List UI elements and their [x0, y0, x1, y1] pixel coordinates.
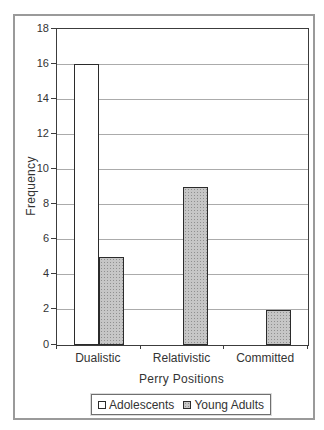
legend-swatch-young-adults	[183, 401, 191, 409]
x-tick-mark	[223, 345, 224, 349]
legend-label: Young Adults	[194, 398, 264, 412]
x-axis-title: Perry Positions	[56, 372, 307, 386]
y-tick-label: 2	[19, 302, 49, 315]
legend: AdolescentsYoung Adults	[91, 394, 271, 415]
bar-young-adults-committed	[266, 310, 291, 345]
bar-young-adults-relativistic	[183, 187, 208, 345]
legend-label: Adolescents	[109, 398, 174, 412]
x-category-label-relativistic: Relativistic	[140, 351, 224, 365]
y-tick-label: 18	[19, 22, 49, 35]
x-tick-mark	[140, 345, 141, 349]
y-tick-label: 10	[19, 162, 49, 175]
bar-adolescents-dualistic	[74, 64, 99, 345]
x-category-label-dualistic: Dualistic	[56, 351, 140, 365]
legend-item-adolescents: Adolescents	[98, 398, 174, 412]
bar-young-adults-dualistic	[99, 257, 124, 345]
x-category-label-committed: Committed	[223, 351, 307, 365]
y-tick-label: 12	[19, 127, 49, 140]
legend-item-young-adults: Young Adults	[183, 398, 264, 412]
y-tick-label: 4	[19, 267, 49, 280]
y-tick-label: 0	[19, 338, 49, 351]
plot-area	[56, 28, 309, 346]
y-tick-label: 8	[19, 197, 49, 210]
y-tick-label: 16	[19, 57, 49, 70]
legend-swatch-adolescents	[98, 401, 106, 409]
x-tick-mark	[56, 345, 57, 349]
chart-figure: Frequency 024681012141618 DualisticRelat…	[0, 0, 324, 430]
y-tick-label: 6	[19, 232, 49, 245]
y-tick-label: 14	[19, 92, 49, 105]
x-tick-mark	[307, 345, 308, 349]
